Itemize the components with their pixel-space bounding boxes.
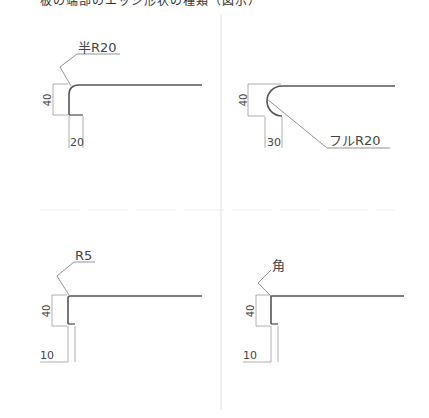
quadrant-dividers: [40, 14, 395, 410]
callout-label: フルR20: [329, 133, 381, 148]
dim-width-label: 20: [70, 136, 84, 149]
dim-height-label: 40: [42, 94, 53, 107]
dim-height-label: 40: [41, 305, 52, 318]
dim-height-label: 40: [238, 94, 249, 107]
edge-profile-diagram: 40 20 半R20 40 30 フルR20 40 10 R5: [0, 0, 429, 418]
dim-width-label: 10: [243, 349, 257, 362]
callout-label: R5: [75, 248, 92, 263]
callout-label: 角: [272, 258, 285, 273]
panel-half-r20: 40 20 半R20: [42, 40, 202, 149]
panel-full-r20: 40 30 フルR20: [238, 84, 395, 149]
callout-label: 半R20: [78, 40, 117, 55]
panel-square: 40 10 角: [243, 258, 404, 362]
dim-width-label: 30: [267, 136, 281, 149]
dim-height-label: 40: [245, 305, 256, 318]
dim-width-label: 10: [40, 349, 54, 362]
panel-r5: 40 10 R5: [40, 248, 202, 362]
